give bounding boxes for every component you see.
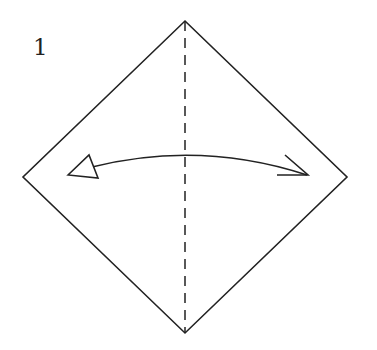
fold-arrowhead-icon [277, 155, 308, 175]
fold-unfold-arrow-curve [92, 155, 307, 175]
origami-diagram [0, 0, 377, 350]
unfold-arrowhead-icon [68, 155, 98, 178]
